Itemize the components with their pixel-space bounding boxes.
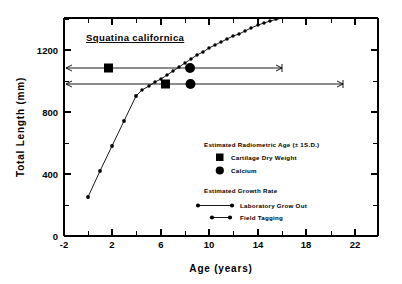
legend-radiometric: Estimated Radiometric Age (± 1S.D.) Cart… — [204, 141, 319, 175]
y-tick-labels: 0 400 800 1200 — [37, 45, 58, 242]
legend-growth-rate: Estimated Growth Rate Laboratory Grow Ou… — [196, 187, 307, 221]
x-tick-label: 10 — [204, 239, 215, 250]
x-tick-labels: -2 2 6 10 14 18 22 — [60, 239, 361, 250]
growth-curve-figure: -2 2 6 10 14 18 22 0 400 800 1200 Age (y… — [0, 0, 402, 284]
legend-growth-heading: Estimated Growth Rate — [204, 187, 278, 194]
x-axis-title: Age (years) — [189, 263, 252, 274]
y-axis-ticks — [64, 19, 71, 236]
marker-calcium — [185, 63, 196, 89]
legend-radiometric-heading: Estimated Radiometric Age (± 1S.D.) — [204, 141, 319, 148]
error-bar-radiometric-lower — [66, 80, 343, 88]
x-tick-label: 6 — [158, 239, 163, 250]
marker-cartilage-dry-weight — [104, 64, 170, 89]
legend-item-label: Cartilage Dry Weight — [231, 154, 297, 161]
y-tick-label: 800 — [42, 107, 58, 118]
y-tick-label: 0 — [53, 231, 58, 242]
y-tick-label: 1200 — [37, 45, 58, 56]
legend-item-label: Field Tagging — [240, 214, 283, 221]
x-tick-label: -2 — [60, 239, 68, 250]
x-tick-label: 22 — [350, 239, 361, 250]
x-tick-label: 2 — [109, 239, 114, 250]
legend-square-icon — [216, 154, 224, 162]
legend-item-label: Calcium — [231, 167, 257, 174]
legend-field-tagging-icon — [210, 215, 232, 219]
legend-circle-icon — [216, 166, 224, 174]
legend-lab-grow-out-icon — [196, 203, 234, 207]
chart-canvas: -2 2 6 10 14 18 22 0 400 800 1200 Age (y… — [0, 0, 402, 284]
legend-item-label: Laboratory Grow Out — [240, 202, 307, 209]
right-axis-ticks — [371, 50, 378, 236]
y-axis-title: Total Length (mm) — [15, 77, 26, 177]
top-axis-ticks — [88, 18, 355, 25]
x-tick-label: 18 — [301, 239, 312, 250]
x-axis-ticks — [64, 229, 355, 236]
species-title: Squatina californica — [86, 32, 185, 43]
x-tick-label: 14 — [253, 239, 264, 250]
y-tick-label: 400 — [42, 169, 58, 180]
